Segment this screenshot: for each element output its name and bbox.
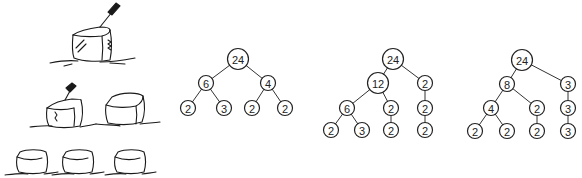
tree-node: 2: [468, 124, 483, 139]
factor-tree-1: 24642322: [181, 49, 293, 116]
tree-node: 2: [418, 76, 433, 91]
node-label: 24: [516, 55, 528, 67]
tree-node: 24: [228, 49, 249, 70]
node-label: 12: [372, 78, 384, 90]
tree-node: 24: [383, 49, 404, 70]
node-label: 3: [565, 79, 571, 91]
tree-node: 2: [500, 124, 515, 139]
tree-node: 8: [500, 77, 515, 92]
node-label: 2: [422, 78, 428, 90]
tree-node: 3: [561, 124, 576, 139]
factor-tree-2: 241226222322: [324, 49, 433, 138]
node-label: 2: [328, 125, 334, 137]
tree-node: 2: [418, 123, 433, 138]
node-label: 2: [282, 103, 288, 115]
node-label: 2: [504, 126, 510, 138]
tree-node: 4: [484, 101, 499, 116]
diagram-canvas: 2464232224122622232224834232223: [0, 0, 582, 178]
tree-node: 24: [512, 50, 533, 71]
tree-node: 2: [278, 101, 293, 116]
three-ice-cubes: [5, 150, 156, 175]
node-label: 6: [203, 78, 209, 90]
node-label: 3: [221, 103, 227, 115]
tree-node: 12: [368, 73, 389, 94]
tree-node: 2: [530, 124, 545, 139]
node-label: 2: [422, 125, 428, 137]
node-label: 4: [265, 78, 271, 90]
tree-node: 2: [530, 101, 545, 116]
node-label: 3: [565, 126, 571, 138]
node-label: 3: [359, 125, 365, 137]
node-label: 2: [185, 103, 191, 115]
node-label: 2: [534, 126, 540, 138]
node-label: 2: [472, 126, 478, 138]
node-label: 3: [565, 103, 571, 115]
two-ice-cubes: [30, 83, 160, 128]
tree-node: 2: [324, 123, 339, 138]
node-label: 4: [488, 103, 494, 115]
node-label: 2: [534, 103, 540, 115]
node-label: 6: [344, 103, 350, 115]
node-label: 2: [422, 103, 428, 115]
tree-node: 2: [384, 101, 399, 116]
factor-trees: 2464232224122622232224834232223: [181, 49, 576, 139]
node-label: 24: [387, 54, 399, 66]
node-label: 24: [232, 54, 244, 66]
tree-node: 6: [199, 76, 214, 91]
tree-node: 2: [418, 101, 433, 116]
large-ice-cube-with-knife: [50, 3, 135, 66]
node-label: 2: [388, 125, 394, 137]
tree-node: 3: [217, 101, 232, 116]
node-label: 2: [388, 103, 394, 115]
tree-node: 6: [340, 101, 355, 116]
tree-node: 2: [384, 123, 399, 138]
node-label: 2: [249, 103, 255, 115]
node-label: 8: [504, 79, 510, 91]
tree-node: 3: [355, 123, 370, 138]
tree-node: 2: [245, 101, 260, 116]
tree-node: 3: [561, 77, 576, 92]
ice-cube-illustration: [5, 3, 160, 175]
tree-node: 3: [561, 101, 576, 116]
tree-node: 4: [261, 76, 276, 91]
factor-tree-3: 24834232223: [468, 50, 576, 139]
tree-node: 2: [181, 101, 196, 116]
